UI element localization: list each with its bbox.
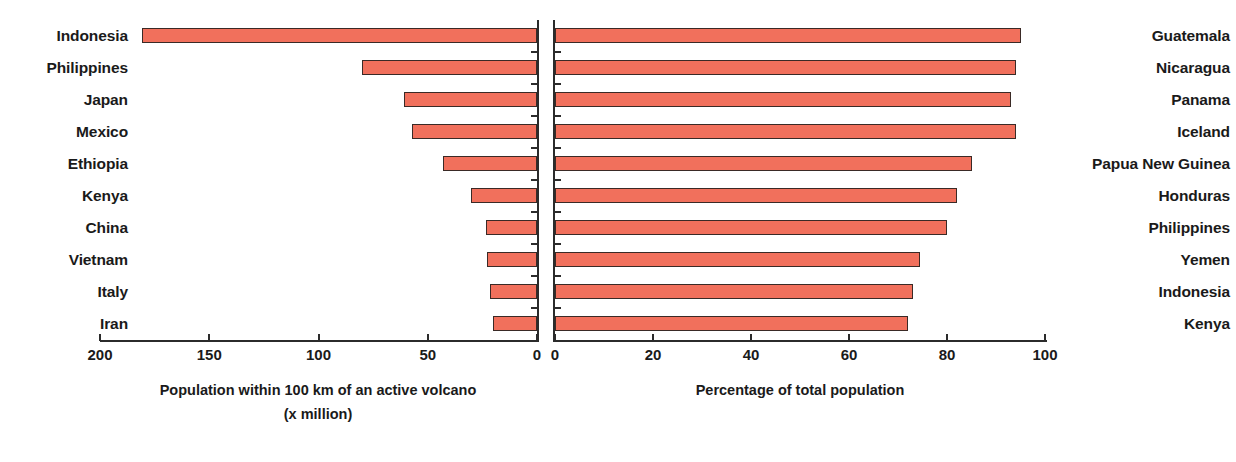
y-tick-right-6 [555,211,561,213]
bar-row-right-7 [555,244,1045,276]
y-tick-right-5 [555,179,561,181]
right-plot-panel [555,20,1045,340]
x-tick-right-0 [554,334,556,341]
x-tick-right-2 [750,334,752,341]
category-label-right-0: Guatemala [1022,20,1230,52]
x-tick-label-right-3: 60 [841,346,858,363]
bar-right-honduras[interactable] [555,188,957,203]
x-tick-label-right-4: 80 [939,346,956,363]
x-tick-label-right-1: 20 [645,346,662,363]
bar-left-mexico[interactable] [412,124,537,139]
x-tick-label-right-0: 0 [551,346,559,363]
bar-row-left-6 [100,212,537,244]
y-tick-left-2 [531,83,537,85]
bar-left-indonesia[interactable] [142,28,537,43]
bar-row-left-2 [100,84,537,116]
bar-left-italy[interactable] [490,284,537,299]
category-label-right-8: Indonesia [1022,276,1230,308]
right-axis-title: Percentage of total population [696,382,905,398]
bar-left-china[interactable] [486,220,537,235]
bar-row-left-8 [100,276,537,308]
bar-row-right-0 [555,20,1045,52]
x-tick-label-left-2: 100 [306,346,331,363]
y-tick-left-5 [531,179,537,181]
bar-row-right-8 [555,276,1045,308]
x-tick-right-3 [848,334,850,341]
y-tick-right-2 [555,83,561,85]
category-label-right-1: Nicaragua [1022,52,1230,84]
x-tick-left-3 [427,334,429,341]
x-tick-label-left-0: 200 [87,346,112,363]
bar-right-nicaragua[interactable] [555,60,1016,75]
x-tick-label-right-5: 100 [1032,346,1057,363]
bar-right-panama[interactable] [555,92,1011,107]
category-label-right-3: Iceland [1022,116,1230,148]
x-tick-right-1 [652,334,654,341]
bar-right-kenya[interactable] [555,316,908,331]
y-tick-left-6 [531,211,537,213]
y-tick-left-4 [531,147,537,149]
bar-left-japan[interactable] [404,92,537,107]
bar-row-left-4 [100,148,537,180]
y-tick-right-9 [555,307,561,309]
y-tick-left-9 [531,307,537,309]
category-label-right-5: Honduras [1022,180,1230,212]
bar-left-philippines[interactable] [362,60,537,75]
bar-right-guatemala[interactable] [555,28,1021,43]
x-tick-left-4 [536,334,538,341]
left-x-axis-line [100,340,539,342]
left-y-axis-line [537,20,539,342]
x-tick-right-5 [1044,334,1046,341]
x-tick-left-1 [208,334,210,341]
bar-left-vietnam[interactable] [487,252,537,267]
x-tick-label-left-4: 0 [533,346,541,363]
left-axis-title-line2: (x million) [284,406,352,422]
x-tick-right-4 [946,334,948,341]
bar-row-right-1 [555,52,1045,84]
category-label-right-2: Panama [1022,84,1230,116]
right-x-axis-line [553,340,1047,342]
y-tick-left-7 [531,243,537,245]
bar-row-right-6 [555,212,1045,244]
bar-right-yemen[interactable] [555,252,920,267]
bar-right-iceland[interactable] [555,124,1016,139]
bar-left-iran[interactable] [493,316,537,331]
bar-row-left-1 [100,52,537,84]
y-tick-left-1 [531,51,537,53]
bar-left-ethiopia[interactable] [443,156,537,171]
bar-right-philippines[interactable] [555,220,947,235]
bar-row-right-4 [555,148,1045,180]
bar-row-right-2 [555,84,1045,116]
category-label-right-6: Philippines [1022,212,1230,244]
y-tick-right-3 [555,115,561,117]
y-tick-left-3 [531,115,537,117]
bar-row-right-5 [555,180,1045,212]
x-tick-label-left-1: 150 [197,346,222,363]
y-tick-right-4 [555,147,561,149]
category-label-right-7: Yemen [1022,244,1230,276]
bar-right-indonesia[interactable] [555,284,913,299]
y-tick-right-7 [555,243,561,245]
x-tick-label-left-3: 50 [419,346,436,363]
category-label-right-9: Kenya [1022,308,1230,340]
bar-row-left-7 [100,244,537,276]
y-tick-right-8 [555,275,561,277]
right-y-axis-line [553,20,555,342]
left-axis-title-line1: Population within 100 km of an active vo… [160,382,477,398]
bar-row-left-5 [100,180,537,212]
y-tick-left-8 [531,275,537,277]
x-tick-label-right-2: 40 [743,346,760,363]
bar-right-papua-new-guinea[interactable] [555,156,972,171]
bar-row-left-0 [100,20,537,52]
bar-row-right-3 [555,116,1045,148]
right-category-labels: GuatemalaNicaraguaPanamaIcelandPapua New… [1022,20,1230,340]
bar-row-left-3 [100,116,537,148]
volcano-population-chart: IndonesiaPhilippinesJapanMexicoEthiopiaK… [0,0,1236,462]
y-tick-right-1 [555,51,561,53]
x-tick-left-2 [318,334,320,341]
left-plot-panel [100,20,537,340]
bar-left-kenya[interactable] [471,188,537,203]
bar-row-right-9 [555,308,1045,340]
x-tick-left-0 [99,334,101,341]
category-label-right-4: Papua New Guinea [1022,148,1230,180]
